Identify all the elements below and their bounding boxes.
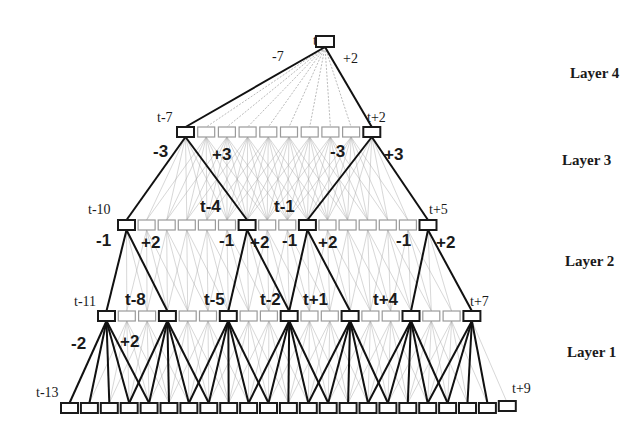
dilation-offset-label: -3 <box>153 142 168 161</box>
bold-edge <box>350 321 368 403</box>
input-node-box <box>240 403 257 413</box>
input-node-box <box>121 403 138 413</box>
input-node-box <box>101 403 118 413</box>
input-node-box <box>280 403 297 413</box>
layer2-node-box <box>379 220 396 230</box>
node-label: t-11 <box>74 294 96 309</box>
bold-edge <box>368 321 411 403</box>
layer1-node-box <box>342 311 359 321</box>
faint-edge <box>189 321 208 403</box>
faint-edge <box>247 230 249 311</box>
layer2-node-box <box>339 220 356 230</box>
dilation-offset-label: +2 <box>436 233 455 252</box>
node-label: t+2 <box>367 110 386 125</box>
layer3-node-box <box>343 127 360 137</box>
layer3-node-box <box>322 127 339 137</box>
dilation-offset-label: +3 <box>212 145 231 164</box>
dilation-offset-label: -1 <box>96 231 111 250</box>
layer1-node-box <box>118 311 135 321</box>
faint-edge <box>428 230 431 311</box>
faint-edge <box>308 321 330 403</box>
layer1-node-box <box>179 311 196 321</box>
dilated-convolution-diagram: tt-7t+2t-10t-4t-1t+5t-11t-8t-5t-2t+1t+4t… <box>0 0 628 440</box>
bold-edge <box>348 321 350 403</box>
dilation-offset-label: -1 <box>219 231 234 250</box>
input-node-box <box>61 403 78 413</box>
node-label: t+5 <box>429 202 448 217</box>
layer1-node-box <box>98 311 115 321</box>
bold-edge <box>186 47 326 127</box>
layer2-node-box <box>399 220 416 230</box>
layer1-node-box <box>403 311 420 321</box>
layer1-node-box <box>362 311 379 321</box>
input-node-box <box>419 403 436 413</box>
faint-edge <box>368 230 371 311</box>
dilation-offset-label: +3 <box>384 145 403 164</box>
input-node-box <box>200 403 217 413</box>
faint-edge <box>248 47 325 127</box>
input-node-box <box>141 403 158 413</box>
layer3-node-box <box>218 127 235 137</box>
layer2-node-box <box>259 220 276 230</box>
input-node-box <box>439 403 456 413</box>
node-label: t+7 <box>470 294 489 309</box>
layer3-node-box <box>239 127 256 137</box>
dilation-offset-label: -1 <box>282 231 297 250</box>
dilation-offset-label: -7 <box>272 49 284 64</box>
layer2-node-box <box>178 220 195 230</box>
faint-edge <box>167 230 168 311</box>
bold-edge <box>411 321 448 403</box>
layer1-node-box <box>463 311 480 321</box>
bold-edge <box>411 321 428 403</box>
bold-edge <box>288 321 289 403</box>
layer3-node-box <box>281 127 298 137</box>
faint-edge <box>348 230 351 311</box>
layer-label: Layer 2 <box>565 253 614 269</box>
bold-edge <box>89 321 106 403</box>
input-node-box <box>340 403 357 413</box>
input-node-box <box>399 403 416 413</box>
faint-edge <box>167 230 186 311</box>
faint-edge <box>325 47 330 127</box>
dilation-offset-label: -2 <box>71 334 86 353</box>
node-label: t+1 <box>303 290 328 309</box>
layer-label: Layer 1 <box>567 344 616 360</box>
layer3-node-box <box>198 127 215 137</box>
dilation-offset-label: +2 <box>120 332 139 351</box>
layer1-node-box <box>240 311 257 321</box>
layer2-node-box <box>239 220 256 230</box>
input-node-box <box>459 403 476 413</box>
layer2-node-box <box>158 220 175 230</box>
input-node-box <box>180 403 197 413</box>
node-label: t <box>313 33 317 48</box>
layer2-node-box <box>319 220 336 230</box>
input-node-box <box>260 403 277 413</box>
node-label: t-2 <box>260 290 281 309</box>
input-node-box <box>220 403 237 413</box>
layer3-node-box <box>260 127 277 137</box>
layer1-node-box <box>260 311 277 321</box>
input-node-box <box>499 401 516 411</box>
faint-edge <box>368 321 391 403</box>
output-node-box <box>316 36 334 47</box>
faint-edge <box>350 230 368 311</box>
node-label: t-10 <box>88 202 111 217</box>
dilation-offset-label: +2 <box>343 51 358 66</box>
bold-edge <box>167 321 169 403</box>
node-label: t-5 <box>204 290 225 309</box>
layer3-node-box <box>177 127 194 137</box>
layer1-node-box <box>443 311 460 321</box>
dilation-offset-label: +2 <box>141 233 160 252</box>
bold-edge <box>149 321 167 403</box>
node-label: t-8 <box>125 290 146 309</box>
layer2-node-box <box>198 220 215 230</box>
layer1-node-box <box>200 311 217 321</box>
layer2-node-box <box>420 220 437 230</box>
bold-edge <box>472 321 488 403</box>
input-node-box <box>300 403 317 413</box>
layer-label: Layer 3 <box>562 152 611 168</box>
input-node-box <box>360 403 377 413</box>
layer1-node-box <box>139 311 156 321</box>
input-node-box <box>320 403 337 413</box>
layer2-node-box <box>299 220 316 230</box>
